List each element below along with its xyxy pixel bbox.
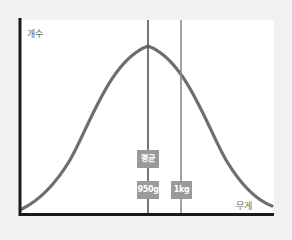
mean-value-tag: 950g xyxy=(137,181,159,199)
reference-value-tag: 1kg xyxy=(171,181,192,199)
x-axis-label: 무게 xyxy=(236,199,252,212)
mean-tag: 평균 xyxy=(137,150,159,168)
y-axis-label: 개수 xyxy=(27,27,43,40)
